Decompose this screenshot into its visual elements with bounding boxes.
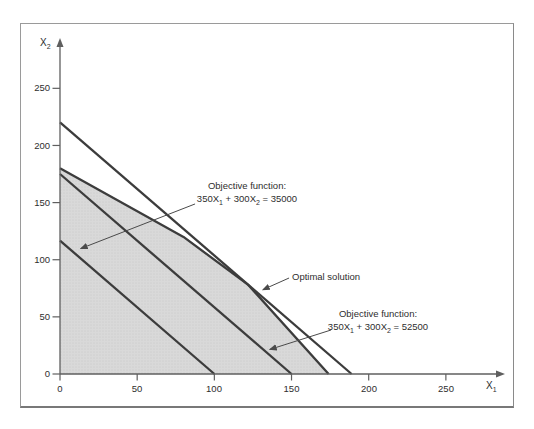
annotation-objective-52500-formula: 350X1 + 300X2 = 52500 [288, 321, 468, 334]
annotation-objective-52500-title: Objective function: [288, 308, 468, 321]
x-tick-label-0: 0 [45, 384, 75, 394]
y-tick-label-150: 150 [18, 198, 50, 208]
formula-part: 350X [197, 193, 219, 204]
y-tick-label-0: 0 [18, 369, 50, 379]
annotation-optimal-solution: Optimal solution [292, 271, 360, 282]
annotation-objective-35000-formula: 350X1 + 300X2 = 35000 [157, 193, 337, 206]
x-tick-label-200: 200 [354, 384, 384, 394]
annotation-objective-35000: Objective function: 350X1 + 300X2 = 3500… [157, 180, 337, 205]
y-tick-label-50: 50 [18, 312, 50, 322]
y-tick-label-250: 250 [18, 83, 50, 93]
annotation-objective-52500: Objective function: 350X1 + 300X2 = 5250… [288, 308, 468, 333]
y-axis-arrow-icon [57, 38, 64, 47]
formula-part: = 35000 [260, 193, 297, 204]
x-axis-title-base: X [486, 380, 493, 391]
y-tick-label-100: 100 [18, 255, 50, 265]
figure-canvas: X2 X1 250 200 150 100 50 0 0 50 100 150 … [0, 0, 534, 429]
formula-part: + 300X [223, 193, 256, 204]
x-axis-title-sub: 1 [493, 386, 497, 393]
formula-part: = 52500 [391, 321, 428, 332]
y-axis-title-base: X [40, 37, 47, 48]
y-tick-label-200: 200 [18, 141, 50, 151]
annotation-objective-35000-title: Objective function: [157, 180, 337, 193]
formula-part: 350X [328, 321, 350, 332]
lp-graph [0, 0, 534, 429]
x-axis-title: X1 [486, 381, 497, 391]
x-tick-label-100: 100 [199, 384, 229, 394]
formula-part: + 300X [354, 321, 387, 332]
leader-arrow-optimal-solution-point [263, 278, 289, 290]
x-tick-label-250: 250 [431, 384, 461, 394]
y-axis-title: X2 [40, 38, 51, 48]
x-tick-label-50: 50 [122, 384, 152, 394]
x-tick-label-150: 150 [277, 384, 307, 394]
y-axis-title-sub: 2 [47, 43, 51, 50]
x-axis-arrow-icon [496, 371, 505, 378]
